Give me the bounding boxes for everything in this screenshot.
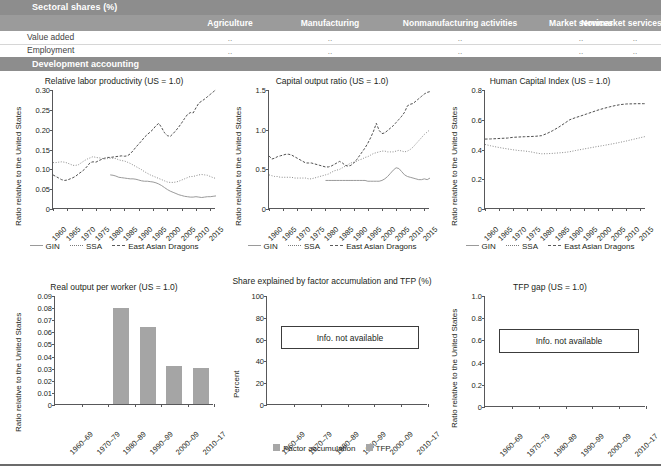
y-axis-tick-label: 80 [256,313,264,322]
legend-swatch-solid-icon [30,245,43,246]
series-line-east-asian-dragons [269,92,430,167]
y-axis-tick-label: 0.05 [35,185,50,194]
legend-swatch-dashed-icon [548,245,561,246]
y-axis-tick-label: 0.6 [472,115,482,124]
y-axis-tick-mark [482,296,485,297]
legend-swatch-factor-accumulation-icon [273,444,280,451]
y-axis-tick-label: 0.8 [472,86,482,95]
x-axis-tick-label: 1980–89 [121,430,148,457]
x-axis-tick-label: 1990–99 [579,432,606,459]
x-axis-tick-mark [348,404,349,407]
x-axis-tick-mark [321,404,322,407]
x-axis-tick-label: 1965 [64,225,82,243]
y-axis-tick-label: 0.6 [472,336,482,345]
figure-page: Sectoral shares (%) Agriculture Manufact… [0,0,661,470]
y-axis-tick-label: 0.15 [35,145,50,154]
legend-item-ssa: SSA [288,242,320,251]
legend-label: SSA [86,242,102,251]
chart-human-capital-index: Human Capital Index (US = 1.0) Ratio rel… [444,76,656,261]
bar [140,327,156,405]
y-axis-tick-label: 0.03 [37,364,52,373]
bar [166,366,182,404]
y-axis-tick-label: 0.09 [37,292,52,301]
y-axis-tick-label: 40 [256,357,264,366]
cell-value-added-manufacturing: .. [278,34,382,43]
x-axis-tick-label: 1990–99 [148,430,175,457]
cell-employment-manufacturing: .. [278,47,382,56]
y-axis-tick-label: 1.0 [256,125,266,134]
column-header-agriculture: Agriculture [182,18,278,28]
chart-legend: GIN SSA East Asian Dragons [228,242,436,251]
chart-capital-output-ratio: Capital output ratio (US = 1.0) Ratio re… [228,76,436,261]
plot-area: Info. not available 00.20.40.60.81.01960… [484,296,645,407]
y-axis-tick-label: 0.30 [35,86,50,95]
series-line-east-asian-dragons [53,90,216,181]
legend-swatch-dotted-icon [288,245,301,246]
x-axis-tick-mark [566,406,567,409]
y-axis-tick-label: 0.07 [37,316,52,325]
legend-label: East Asian Dragons [128,242,198,251]
x-axis-tick-mark [401,404,402,407]
y-axis-tick-mark [52,308,55,309]
legend-label: GIN [46,242,60,251]
y-axis-tick-mark [52,332,55,333]
y-axis-tick-mark [482,340,485,341]
footer-rule [0,464,661,466]
x-axis-tick-mark [619,406,620,409]
chart-y-axis-label: Ratio relative to the United States [450,309,459,428]
legend-item-ssa: SSA [506,242,538,251]
y-axis-tick-label: 0.05 [37,340,52,349]
y-axis-tick-mark [264,383,267,384]
legend-item-gin: GIN [248,242,278,251]
sectoral-shares-band: Sectoral shares (%) [0,0,661,15]
chart-title: Human Capital Index (US = 1.0) [444,76,656,86]
legend-item-east-asian-dragons: East Asian Dragons [330,242,416,251]
legend-item-east-asian-dragons: East Asian Dragons [112,242,198,251]
legend-item-factor-accumulation: Factor accumulation [273,444,355,453]
legend-label: SSA [304,242,320,251]
info-not-available-notice: Info. not available [281,326,419,349]
development-accounting-title: Development accounting [32,59,139,69]
cell-value-added-nonmanufacturing: .. [382,34,538,43]
legend-swatch-dotted-icon [70,245,83,246]
x-axis-tick-mark [592,406,593,409]
x-axis-tick-mark [294,404,295,407]
x-axis-tick-mark [646,406,647,409]
y-axis-tick-label: 0.2 [472,380,482,389]
plot-area: 00.010.020.030.040.050.060.070.080.09196… [54,296,213,405]
legend-label: TFP [376,444,391,453]
y-axis-tick-label: 0.10 [35,165,50,174]
row-label-employment: Employment [27,45,74,55]
chart-y-axis-label: Ratio relative to the United States [14,107,23,226]
development-accounting-band: Development accounting [0,57,661,71]
y-axis-tick-label: 0.04 [37,352,52,361]
x-axis-tick-label: 2010–17 [632,432,659,459]
y-axis-tick-label: 0.08 [37,304,52,313]
y-axis-tick-mark [264,340,267,341]
x-axis-tick-label: 1980–89 [552,432,579,459]
x-axis-tick-label: 2000–09 [606,432,633,459]
y-axis-tick-mark [52,320,55,321]
x-axis-tick-label: 1960–69 [68,430,95,457]
y-axis-tick-label: 1.5 [256,86,266,95]
legend-swatch-dashed-icon [330,245,343,246]
legend-item-ssa: SSA [70,242,102,251]
cell-employment-agriculture: .. [182,47,278,56]
y-axis-tick-label: 0.01 [37,388,52,397]
x-axis-tick-label: 2015 [207,225,225,243]
legend-item-tfp: TFP [366,444,391,453]
y-axis-tick-mark [52,393,55,394]
chart-title: Real output per worker (US = 1.0) [8,282,220,292]
x-axis-tick-label: 1970–79 [95,430,122,457]
chart-title: Share explained by factor accumulation a… [228,276,436,286]
cell-value-added-nonmarket-services: .. [592,34,661,43]
series-line-east-asian-dragons [485,104,646,139]
x-axis-tick-mark [214,404,215,407]
table-column-header-row: Agriculture Manufacturing Nonmanufacturi… [0,15,661,31]
row-label-value-added: Value added [27,32,74,42]
series-layer [269,90,430,209]
x-axis-tick-mark [512,406,513,409]
bar [193,368,209,404]
y-axis-tick-label: 0.02 [37,376,52,385]
chart-y-axis-label: Ratio relative to the United States [234,107,243,226]
